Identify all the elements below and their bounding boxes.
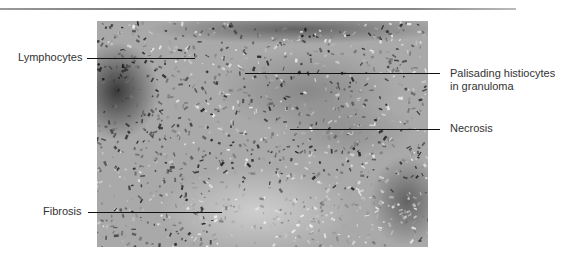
- top-rule: [0, 8, 516, 10]
- label-palisading-line2: in granuloma: [450, 80, 514, 93]
- label-fibrosis: Fibrosis: [43, 205, 82, 218]
- label-palisading-line1: Palisading histiocytes: [450, 67, 555, 80]
- leader-line-necrosis: [290, 129, 440, 130]
- label-necrosis: Necrosis: [450, 122, 493, 135]
- label-lymphocytes: Lymphocytes: [18, 51, 82, 64]
- leader-line-fibrosis: [88, 212, 222, 213]
- leader-line-palisading: [245, 73, 440, 74]
- leader-line-lymphocytes: [87, 58, 195, 59]
